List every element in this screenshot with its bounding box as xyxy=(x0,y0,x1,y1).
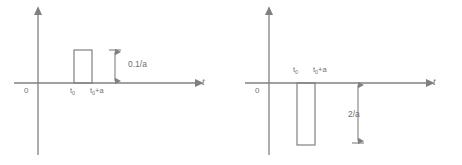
amplitude-label-left: 0.1/a xyxy=(128,60,147,69)
pulse-diagram-right: 0 t0 t0+a 2/a t xyxy=(231,0,462,165)
t-axis-label-left: t xyxy=(202,78,205,87)
pulse-end-label-right: t0+a xyxy=(313,66,327,75)
origin-label-left: 0 xyxy=(24,87,28,95)
pulse-start-label-left: t0 xyxy=(70,87,75,96)
amplitude-label-right: 2/a xyxy=(348,110,360,119)
pulse-diagram-left: 0 t0 t0+a 0.1/a t xyxy=(0,0,231,165)
pulse-start-label-right: t0 xyxy=(293,66,298,75)
figure-pair: 0 t0 t0+a 0.1/a t xyxy=(0,0,462,165)
pulse-rectangle-left xyxy=(74,50,92,83)
origin-label-right: 0 xyxy=(255,87,259,95)
pulse-rectangle-right xyxy=(297,83,315,145)
left-diagram-canvas xyxy=(0,0,231,165)
right-diagram-canvas xyxy=(231,0,462,165)
pulse-end-label-left: t0+a xyxy=(90,87,104,96)
t-axis-label-right: t xyxy=(433,78,436,87)
